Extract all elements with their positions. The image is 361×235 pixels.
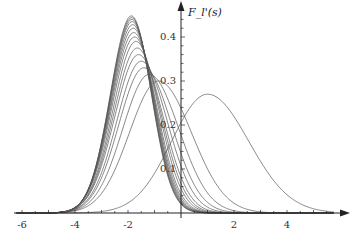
y-axis-arrow-icon [178,1,185,11]
y-tick-label: 0.2 [160,119,176,130]
y-tick-label: 0.3 [160,75,176,86]
x-tick-labels: -6 -4 -2 2 4 [17,219,290,230]
x-tick-label: 2 [231,219,237,230]
density-curve [17,16,334,213]
density-curves [17,16,334,213]
y-axis-title: F_l'(s) [187,6,222,19]
density-chart: -6 -4 -2 2 4 0.1 0.2 0.3 0.4 F_l'(s) [0,0,361,235]
x-tick-label: -6 [17,219,27,230]
density-curve [17,18,334,213]
x-axis-arrow-icon [340,210,350,217]
x-tick-label: 4 [284,219,290,230]
y-tick-label: 0.4 [160,31,176,42]
x-tick-label: -4 [70,219,80,230]
x-tick-label: -2 [123,219,133,230]
y-tick-label: 0.1 [160,163,176,174]
